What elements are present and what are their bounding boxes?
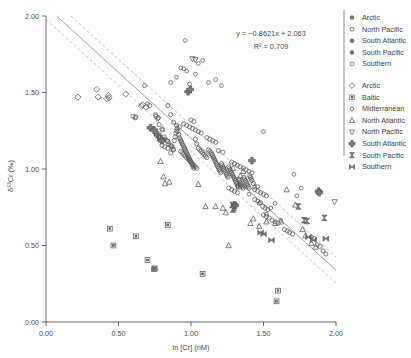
legend-label: Midterranean (362, 104, 404, 113)
legend-item-south-pacific[interactable]: South Pacific (350, 151, 405, 160)
legend-label: Arctic (362, 81, 380, 90)
legend-item-arctic[interactable]: Arctic (349, 81, 380, 90)
y-tick-label: 0.00 (25, 318, 39, 327)
legend-label: North Pacific (362, 127, 403, 136)
x-tick-label: 0.00 (39, 329, 53, 338)
regression-equation-label: y = −0.8621x + 2.063 (236, 29, 306, 38)
legend-item-south-atlantic[interactable]: South Atlantic (349, 139, 406, 148)
x-axis-title: ln [Cr] (nM) (173, 343, 210, 352)
series-North Pacific-triangle-down (190, 57, 338, 205)
legend-item-midterranean[interactable]: Midterranean (350, 104, 404, 113)
legend-item-north-pacific[interactable]: North Pacific (350, 127, 404, 136)
series-main-cluster-circles (131, 84, 328, 256)
legend-item-north-pacific[interactable]: North Pacific (350, 25, 403, 34)
x-tick-label: 1.00 (184, 329, 198, 338)
y-tick-label: 1.50 (25, 88, 39, 97)
legend-item-north-atlantic[interactable]: North Atlantic (350, 116, 406, 125)
scatter-plot-svg: 0.000.501.001.502.00 0.000.501.001.502.0… (0, 0, 411, 358)
legend-item-southern[interactable]: Southern (349, 162, 391, 171)
chart-legend: ArcticNorth PacificSouth AtlanticSouth P… (349, 13, 406, 171)
legend-item-arctic[interactable]: Arctic (350, 13, 380, 22)
x-axis-ticks: 0.000.501.001.502.00 (39, 322, 343, 338)
regression-lines (46, 16, 336, 283)
x-tick-label: 1.50 (257, 329, 271, 338)
legend-item-south-pacific[interactable]: South Pacific (350, 48, 404, 57)
data-points (75, 39, 337, 304)
chart-figure: 0.000.501.001.502.00 0.000.501.001.502.0… (0, 0, 411, 358)
legend-item-baltic[interactable]: Baltic (350, 93, 380, 102)
legend-label: South Atlantic (362, 36, 406, 45)
x-tick-label: 0.50 (112, 329, 126, 338)
plot-axes (46, 16, 336, 322)
legend-label: South Pacific (362, 48, 404, 57)
y-tick-label: 1.00 (25, 165, 39, 174)
legend-label: Baltic (362, 93, 380, 102)
legend-label: North Atlantic (362, 116, 405, 125)
legend-label: South Pacific (362, 151, 404, 160)
series-South Pacific-bowtie (230, 202, 327, 224)
series-Baltic-square (107, 184, 280, 304)
legend-label: North Pacific (362, 25, 403, 34)
y-tick-label: 2.00 (25, 12, 39, 21)
series-Mediterranean-circle (157, 39, 303, 223)
legend-item-southern[interactable]: Southern (350, 59, 391, 68)
r-squared-label: R² = 0.709 (254, 42, 289, 51)
y-axis-ticks: 0.000.501.001.502.00 (25, 12, 46, 327)
legend-label: South Atlantic (362, 139, 406, 148)
y-tick-label: 0.50 (25, 241, 39, 250)
legend-label: Southern (362, 59, 391, 68)
legend-label: Southern (362, 162, 391, 171)
legend-item-south-atlantic[interactable]: South Atlantic (350, 36, 406, 45)
legend-label: Arctic (362, 13, 380, 22)
x-tick-label: 2.00 (329, 329, 343, 338)
y-axis-title: δ⁵³Cr (‰) (6, 160, 15, 192)
